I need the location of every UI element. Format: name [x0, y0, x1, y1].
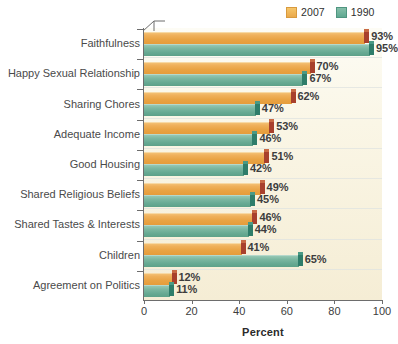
- category-axis-tick: [137, 89, 144, 90]
- x-axis-title: Percent: [144, 326, 382, 338]
- bar-1990[interactable]: [144, 44, 370, 55]
- data-label-1990: 11%: [176, 284, 197, 295]
- category-axis-tick: [137, 210, 144, 211]
- category-axis-tick: [137, 271, 144, 272]
- data-label-1990: 42%: [250, 163, 272, 174]
- x-axis-tick: [382, 300, 383, 304]
- x-axis-tick-label: 80: [328, 306, 340, 317]
- x-axis-tick-label: 0: [141, 306, 147, 317]
- category-label: Adequate Income: [4, 129, 140, 140]
- x-axis-tick: [192, 300, 193, 304]
- category-axis-tick: [137, 120, 144, 121]
- grid-separator: [144, 269, 382, 270]
- bar-fill: [144, 164, 244, 176]
- data-label-1990: 44%: [255, 224, 277, 235]
- bar-fill: [144, 285, 170, 297]
- legend-item-2007: 2007: [286, 7, 325, 18]
- category-label: Agreement on Politics: [4, 280, 140, 291]
- x-axis-line: [143, 300, 383, 301]
- x-axis-tick: [239, 300, 240, 304]
- bar-1990[interactable]: [144, 164, 244, 175]
- bar-1990[interactable]: [144, 225, 249, 236]
- bar-end-cap: [250, 195, 255, 206]
- bar-1990[interactable]: [144, 195, 251, 206]
- category-label: Shared Tastes & Interests: [4, 219, 140, 230]
- bar-end-cap: [369, 44, 374, 55]
- bar-end-cap: [169, 285, 174, 296]
- bar-fill: [144, 134, 253, 146]
- bar-2007[interactable]: [144, 243, 242, 254]
- category-label: Children: [4, 250, 140, 261]
- grid-separator: [144, 239, 382, 240]
- data-label-1990: 65%: [305, 254, 327, 265]
- data-label-2007: 62%: [298, 91, 320, 102]
- category-axis-tick: [137, 241, 144, 242]
- category-label: Happy Sexual Relationship: [4, 68, 140, 79]
- bar-1990[interactable]: [144, 285, 170, 296]
- bar-fill: [144, 213, 253, 225]
- bar-end-cap: [241, 243, 246, 254]
- bar-2007[interactable]: [144, 213, 253, 224]
- data-label-2007: 51%: [271, 151, 293, 162]
- bar-2007[interactable]: [144, 62, 311, 73]
- category-axis-tick: [137, 150, 144, 151]
- bar-fill: [144, 32, 365, 44]
- bar-1990[interactable]: [144, 134, 253, 145]
- bar-end-cap: [243, 164, 248, 175]
- category-axis-tick: [137, 29, 144, 30]
- x-axis-tick-label: 40: [233, 306, 245, 317]
- data-label-2007: 12%: [179, 272, 201, 283]
- data-label-1990: 47%: [262, 103, 284, 114]
- bar-1990[interactable]: [144, 255, 299, 266]
- data-label-2007: 46%: [259, 212, 281, 223]
- chart-plot-area: 93%95%70%67%62%47%53%46%51%42%49%45%46%4…: [144, 28, 382, 300]
- bar-1990[interactable]: [144, 74, 303, 85]
- category-label: Faithfulness: [4, 38, 140, 49]
- bar-1990[interactable]: [144, 104, 256, 115]
- x-axis-tick: [144, 300, 145, 304]
- category-label: Shared Religious Beliefs: [4, 189, 140, 200]
- data-label-2007: 70%: [317, 61, 339, 72]
- legend-label-2007: 2007: [301, 7, 325, 18]
- x-axis-tick-label: 100: [373, 306, 391, 317]
- x-axis-tick: [287, 300, 288, 304]
- bar-2007[interactable]: [144, 32, 365, 43]
- category-label: Good Housing: [4, 159, 140, 170]
- data-label-1990: 67%: [309, 73, 331, 84]
- bar-fill: [144, 255, 299, 267]
- category-axis-labels: FaithfulnessHappy Sexual RelationshipSha…: [0, 0, 140, 344]
- axis-3d-flourish-icon: [140, 20, 166, 32]
- grid-separator: [144, 87, 382, 88]
- bar-2007[interactable]: [144, 122, 270, 133]
- bar-end-cap: [298, 255, 303, 266]
- bar-end-cap: [248, 225, 253, 236]
- bar-fill: [144, 122, 270, 134]
- x-axis-tick: [334, 300, 335, 304]
- bar-end-cap: [255, 104, 260, 115]
- bar-fill: [144, 183, 261, 195]
- bar-fill: [144, 104, 256, 116]
- data-label-2007: 93%: [371, 31, 393, 42]
- grid-separator: [144, 208, 382, 209]
- bar-end-cap: [260, 183, 265, 194]
- x-axis-tick-label: 20: [185, 306, 197, 317]
- bar-fill: [144, 44, 370, 56]
- data-label-1990: 95%: [376, 43, 398, 54]
- category-label: Sharing Chores: [4, 99, 140, 110]
- data-label-2007: 49%: [267, 182, 289, 193]
- bar-end-cap: [291, 92, 296, 103]
- x-axis-tick-label: 60: [281, 306, 293, 317]
- data-label-2007: 53%: [276, 121, 298, 132]
- legend-swatch-2007-icon: [286, 7, 297, 18]
- data-label-1990: 45%: [257, 194, 279, 205]
- category-axis-tick: [137, 180, 144, 181]
- bar-end-cap: [252, 134, 257, 145]
- bar-2007[interactable]: [144, 183, 261, 194]
- bar-fill: [144, 225, 249, 237]
- bar-fill: [144, 195, 251, 207]
- grid-separator: [144, 118, 382, 119]
- chart-legend: 2007 1990: [286, 4, 381, 20]
- data-label-1990: 46%: [259, 133, 281, 144]
- legend-item-1990: 1990: [336, 7, 375, 18]
- legend-label-1990: 1990: [351, 7, 375, 18]
